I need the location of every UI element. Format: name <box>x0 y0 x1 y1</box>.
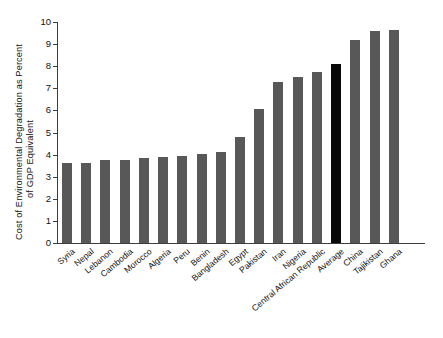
y-axis-tick-mark <box>53 88 57 89</box>
y-axis-tick-label: 3 <box>46 172 51 182</box>
bar <box>350 40 360 243</box>
bar-chart-figure: Cost of Environmental Degradation as Per… <box>0 0 443 338</box>
y-axis-tick-label: 0 <box>46 238 51 248</box>
bar <box>273 82 283 243</box>
bar <box>312 72 322 243</box>
y-axis-title-line-1: Cost of Environmental Degradation as Per… <box>14 44 24 240</box>
y-axis-tick-mark <box>53 199 57 200</box>
y-axis-tick-label: 8 <box>46 61 51 71</box>
bar <box>62 163 72 243</box>
y-axis-tick-mark <box>53 133 57 134</box>
x-axis-tick-labels: SyriaNepalLebanonCambodiaMoroccoAlgeriaP… <box>57 245 443 338</box>
y-axis-tick-label: 5 <box>46 128 51 138</box>
y-axis-tick-label: 2 <box>46 194 51 204</box>
bar <box>100 160 110 243</box>
y-axis-tick-mark <box>53 177 57 178</box>
y-axis-tick-mark <box>53 66 57 67</box>
bar <box>216 152 226 243</box>
y-axis-tick-mark <box>53 221 57 222</box>
y-axis-title: Cost of Environmental Degradation as Per… <box>0 0 40 250</box>
y-axis-tick-label: 7 <box>46 84 51 94</box>
y-axis-tick-mark <box>53 44 57 45</box>
y-axis-tick-mark <box>53 155 57 156</box>
y-axis-tick-label: 6 <box>46 106 51 116</box>
y-axis-title-line-2: of GDP Equivalent <box>25 120 35 198</box>
bar <box>235 137 245 243</box>
y-axis-tick-label: 9 <box>46 39 51 49</box>
bar <box>197 154 207 244</box>
bar <box>293 77 303 243</box>
y-axis-line <box>57 22 58 243</box>
bar <box>331 64 341 243</box>
bar <box>389 30 399 243</box>
y-axis-tick-mark <box>53 22 57 23</box>
bar <box>81 163 91 243</box>
y-axis-tick-label: 1 <box>46 216 51 226</box>
y-axis-tick-label: 4 <box>46 150 51 160</box>
y-axis-tick-mark <box>53 243 57 244</box>
y-axis-tick-label: 10 <box>40 17 51 27</box>
y-axis-tick-mark <box>53 110 57 111</box>
